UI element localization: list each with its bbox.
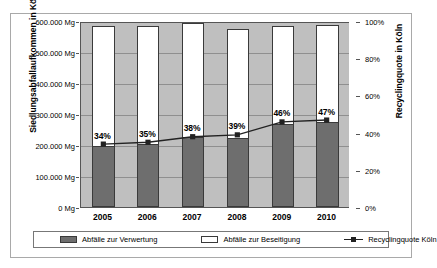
y-axis-right-tick-label: 20%	[365, 166, 380, 175]
gridline	[81, 146, 349, 147]
gridline	[81, 22, 349, 23]
legend-item-beseitigung: Abfälle zur Beseitigung	[201, 235, 300, 244]
bar-group[interactable]	[227, 21, 249, 207]
y-axis-left-tick-label: 500.000 Mg	[35, 49, 75, 58]
bar-group[interactable]	[182, 21, 204, 207]
filled-square-swatch-icon	[60, 236, 77, 243]
line-marker-swatch-icon	[344, 236, 363, 243]
bar-segment-verwertung[interactable]	[316, 122, 338, 207]
x-axis-tick-label: 2010	[317, 212, 336, 222]
x-axis-tick-label: 2009	[272, 212, 291, 222]
gridline	[81, 84, 349, 85]
x-axis-tick-label: 2006	[138, 212, 157, 222]
y-axis-left-tick-label: 300.000 Mg	[35, 111, 75, 120]
chart-frame: Siedlungsabfallaufkommen in Köln Recycli…	[10, 13, 412, 258]
y-axis-left-tick-label: 600.000 Mg	[35, 18, 75, 27]
y-axis-right-tick-label: 60%	[365, 92, 380, 101]
x-axis-tick-label: 2005	[93, 212, 112, 222]
data-label-recyclingquote: 35%	[139, 129, 156, 139]
legend-label-verwertung: Abfälle zur Verwertung	[82, 235, 157, 244]
legend-label-recyclingquote: Recyclingquote Köln	[368, 235, 436, 244]
y-axis-left-tickmark	[76, 177, 79, 178]
y-axis-right-tickmark	[356, 59, 360, 60]
bar-segment-verwertung[interactable]	[92, 146, 114, 207]
y-axis-left-tick-label: 0 Mg	[58, 204, 75, 213]
y-axis-left-tickmark	[76, 208, 79, 209]
y-axis-right-tick-label: 40%	[365, 129, 380, 138]
y-axis-right-tick-label: 80%	[365, 55, 380, 64]
gridline	[81, 53, 349, 54]
chart-legend: Abfälle zur Verwertung Abfälle zur Besei…	[33, 231, 389, 248]
data-label-recyclingquote: 38%	[184, 123, 201, 133]
bar-segment-verwertung[interactable]	[227, 138, 249, 207]
legend-label-beseitigung: Abfälle zur Beseitigung	[223, 235, 300, 244]
y-axis-right-tickmark	[356, 134, 360, 135]
y-axis-right-tick-label: 100%	[365, 18, 384, 27]
y-axis-right-tickmark	[356, 22, 360, 23]
x-axis-ticks: 200520062007200820092010	[80, 212, 349, 226]
y-axis-right-tickmark	[356, 96, 360, 97]
x-axis-tick-label: 2008	[227, 212, 246, 222]
data-label-recyclingquote: 47%	[318, 107, 335, 117]
y-axis-left-tick-label: 100.000 Mg	[35, 173, 75, 182]
y-axis-right-ticks: 0%20%40%60%80%100%	[355, 22, 405, 208]
y-axis-right-tick-label: 0%	[365, 204, 376, 213]
plot-area: 34%35%38%39%46%47%	[80, 22, 349, 208]
bar-segment-verwertung[interactable]	[272, 124, 294, 207]
bar-segment-verwertung[interactable]	[137, 144, 159, 207]
bar-group[interactable]	[137, 21, 159, 207]
y-axis-left-tickmark	[76, 115, 79, 116]
y-axis-left-tickmark	[76, 22, 79, 23]
y-axis-right-tickmark	[356, 171, 360, 172]
data-label-recyclingquote: 46%	[273, 108, 290, 118]
legend-item-recyclingquote: Recyclingquote Köln	[344, 235, 436, 244]
top-blank-strip	[0, 0, 423, 11]
y-axis-left-tick-label: 200.000 Mg	[35, 142, 75, 151]
y-axis-left-tickmark	[76, 146, 79, 147]
legend-item-verwertung: Abfälle zur Verwertung	[60, 235, 157, 244]
y-axis-left-ticks: 0 Mg100.000 Mg200.000 Mg300.000 Mg400.00…	[11, 22, 75, 208]
gridline	[81, 115, 349, 116]
y-axis-left-tickmark	[76, 53, 79, 54]
bar-group[interactable]	[92, 21, 114, 207]
bar-segment-verwertung[interactable]	[182, 137, 204, 207]
data-label-recyclingquote: 34%	[94, 131, 111, 141]
x-axis-tick-label: 2007	[183, 212, 202, 222]
data-label-recyclingquote: 39%	[229, 121, 246, 131]
y-axis-left-tick-label: 400.000 Mg	[35, 80, 75, 89]
hollow-square-swatch-icon	[201, 236, 218, 243]
y-axis-left-tickmark	[76, 84, 79, 85]
y-axis-right-tickmark	[356, 208, 360, 209]
gridline	[81, 177, 349, 178]
